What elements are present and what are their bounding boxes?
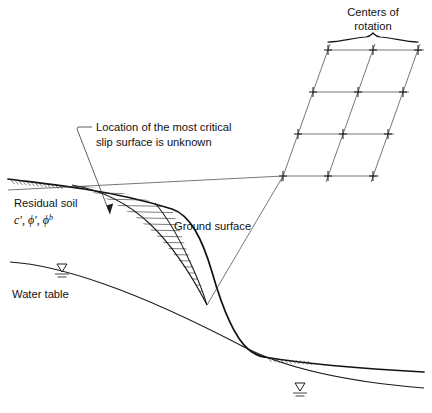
centers-of-rotation-brace: [328, 33, 418, 42]
residual-soil-parameters: c', ϕ', ϕb: [14, 213, 53, 227]
grid-columns: [281, 44, 420, 182]
plus-marker: [399, 87, 407, 97]
critical-slip-arrowhead: [106, 203, 113, 214]
water-table-symbol-upper: [55, 264, 69, 277]
plus-marker: [324, 171, 332, 181]
centers-of-rotation-label-line2: rotation: [354, 20, 391, 32]
water-table-group: [10, 262, 424, 396]
plus-marker: [339, 129, 347, 139]
plus-marker: [324, 45, 332, 55]
crest-to-grid-line: [8, 176, 283, 190]
toe-to-grid-line: [207, 176, 283, 305]
water-table-symbol-lower: [293, 383, 307, 396]
slip-surface-outer: [72, 185, 207, 305]
critical-slip-label-line2: slip surface is unknown: [96, 136, 212, 148]
plus-marker: [294, 129, 302, 139]
plus-marker: [414, 45, 422, 55]
plus-marker: [369, 171, 377, 181]
critical-slip-label-line1: Location of the most critical: [96, 121, 232, 133]
centers-of-rotation-label-line1: Centers of: [347, 6, 400, 18]
plus-marker: [384, 129, 392, 139]
slope-stability-figure: Centers of rotation Location of the most…: [0, 0, 432, 413]
plus-marker: [369, 45, 377, 55]
water-table-line: [10, 262, 424, 388]
plus-marker: [309, 87, 317, 97]
param-suction-angle-sup: b: [49, 213, 53, 222]
sliding-mass-group: [50, 185, 240, 310]
plus-marker: [354, 87, 362, 97]
water-table-label: Water table: [12, 288, 69, 300]
centers-of-rotation-grid: [279, 44, 424, 182]
grid-rows: [283, 50, 424, 176]
diagram-canvas: Centers of rotation Location of the most…: [0, 0, 432, 413]
ground-surface-label: Ground surface: [174, 220, 251, 232]
slip-band-hatching: [50, 186, 240, 310]
residual-soil-label: Residual soil: [14, 197, 77, 209]
